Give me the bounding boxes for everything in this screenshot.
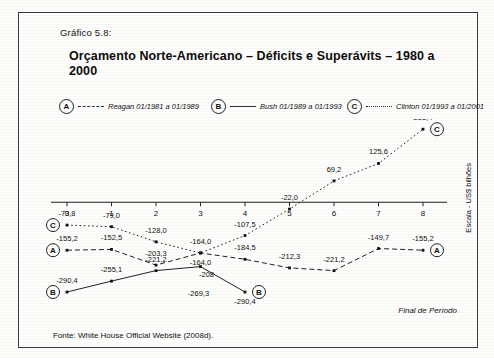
data-label: -79,0 xyxy=(103,211,120,220)
chart-plot-area: 012345678-155,2-152,5-203,3-164,0-184,5-… xyxy=(45,119,453,309)
data-label: -155,2 xyxy=(412,234,433,243)
chart-legend: A Reagan 01/1981 a 01/1989 B Bush 01/198… xyxy=(59,99,459,115)
x-axis-note: Final de Período xyxy=(398,306,457,315)
chart-title: Orçamento Norte-Americano – Déficits e S… xyxy=(69,49,459,79)
legend-item-b: B Bush 01/1989 a 01/1993 xyxy=(211,99,342,114)
data-point-marker xyxy=(110,248,113,251)
data-label: 236,4 xyxy=(414,119,433,122)
data-label: -128,0 xyxy=(145,226,166,235)
data-label: -290,4 xyxy=(56,276,77,285)
data-label: -22,0 xyxy=(281,193,298,202)
data-label: -107,5 xyxy=(234,220,255,229)
data-point-marker xyxy=(377,247,380,250)
data-point-marker xyxy=(110,225,113,228)
data-label: -208 xyxy=(199,270,214,279)
data-point-marker xyxy=(155,240,158,243)
series-start-badge-label: A xyxy=(50,246,56,255)
series-end-badge-label: A xyxy=(434,246,440,255)
x-axis-tick: 4 xyxy=(243,209,248,218)
legend-badge-b: B xyxy=(211,99,226,114)
data-point-marker xyxy=(288,266,291,269)
data-point-marker xyxy=(244,234,247,237)
legend-line-c xyxy=(366,106,392,107)
data-point-marker xyxy=(66,291,69,294)
chart-svg: 012345678-155,2-152,5-203,3-164,0-184,5-… xyxy=(45,119,453,309)
legend-line-a xyxy=(78,106,104,107)
data-point-marker xyxy=(422,128,425,131)
x-axis-tick: 8 xyxy=(421,209,426,218)
data-point-marker xyxy=(66,224,69,227)
data-label: -152,5 xyxy=(101,233,122,242)
source-note: Fonte: White House Official Website (200… xyxy=(53,331,213,340)
data-label: 125,6 xyxy=(369,147,388,156)
legend-label-a: Reagan 01/1981 a 01/1989 xyxy=(108,102,199,111)
series-start-badge-label: B xyxy=(50,288,56,297)
data-point-marker xyxy=(66,249,69,252)
x-axis-tick: 6 xyxy=(332,209,337,218)
figure-label: Gráfico 5.8: xyxy=(55,27,117,38)
legend-item-a: A Reagan 01/1981 a 01/1989 xyxy=(59,99,199,114)
data-point-marker xyxy=(199,252,202,255)
data-label: 69,2 xyxy=(327,165,342,174)
data-point-marker xyxy=(288,208,291,211)
data-point-marker xyxy=(333,269,336,272)
data-label: -221,2 xyxy=(323,255,344,264)
legend-label-c: Clinton 01/1993 a 01/2001 xyxy=(396,102,484,111)
legend-item-c: C Clinton 01/1993 a 01/2001 xyxy=(347,99,484,114)
data-label: -73,8 xyxy=(58,209,75,218)
data-label: -164,0 xyxy=(190,237,211,246)
legend-badge-c: C xyxy=(347,99,362,114)
x-axis-tick: 7 xyxy=(376,209,381,218)
data-label: -221,2 xyxy=(145,255,166,264)
data-label: -290,4 xyxy=(234,297,255,306)
data-label: -212,3 xyxy=(279,252,300,261)
data-point-marker xyxy=(377,162,380,165)
data-label: -255,1 xyxy=(101,265,122,274)
y-axis-label: Escala - US$ bilhões xyxy=(464,163,473,233)
series-end-badge-label: B xyxy=(256,288,262,297)
chart-card: Gráfico 5.8: Orçamento Norte-Americano –… xyxy=(18,12,478,348)
series-end-badge-label: C xyxy=(434,125,440,134)
data-point-marker xyxy=(333,179,336,182)
x-axis-tick: 2 xyxy=(154,209,159,218)
data-label: -184,5 xyxy=(234,243,255,252)
legend-label-b: Bush 01/1989 a 01/1993 xyxy=(260,102,342,111)
data-label: -269,3 xyxy=(188,289,209,298)
data-point-marker xyxy=(155,264,158,267)
screenshot-frame: Gráfico 5.8: Orçamento Norte-Americano –… xyxy=(0,0,494,358)
series-start-badge-label: C xyxy=(50,221,56,230)
data-label: -164,0 xyxy=(190,258,211,267)
data-point-marker xyxy=(422,249,425,252)
data-point-marker xyxy=(110,280,113,283)
data-point-marker xyxy=(244,258,247,261)
x-axis-tick: 5 xyxy=(287,209,292,218)
legend-line-b xyxy=(230,106,256,107)
data-label: -155,2 xyxy=(56,234,77,243)
x-axis-tick: 3 xyxy=(198,209,203,218)
data-point-marker xyxy=(155,269,158,272)
data-point-marker xyxy=(244,291,247,294)
legend-badge-a: A xyxy=(59,99,74,114)
data-label: -149,7 xyxy=(368,233,389,242)
